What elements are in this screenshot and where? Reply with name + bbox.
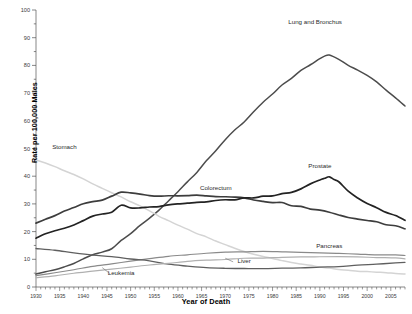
svg-text:20: 20 xyxy=(24,229,30,235)
series-line-colorectum xyxy=(36,192,405,229)
x-axis-title: Year of Death xyxy=(0,297,412,306)
svg-text:100: 100 xyxy=(21,7,30,13)
series-label-stomach: Stomach xyxy=(52,143,77,150)
series-lines xyxy=(36,55,405,278)
series-annotations: Lung and BronchusStomachColorectumProsta… xyxy=(52,18,342,277)
series-label-pancreas: Pancreas xyxy=(316,242,342,249)
series-label-colorectum: Colorectum xyxy=(200,184,232,191)
series-label-liver: Liver xyxy=(237,257,250,264)
svg-text:90: 90 xyxy=(24,35,30,41)
y-axis-title: Rate per 100,000 Males xyxy=(30,63,39,183)
series-label-lung-and-bronchus: Lung and Bronchus xyxy=(288,18,342,25)
series-line-liver xyxy=(36,248,405,268)
svg-text:30: 30 xyxy=(24,201,30,207)
series-label-leukemia: Leukemia xyxy=(108,269,135,276)
series-label-prostate: Prostate xyxy=(308,162,332,169)
cancer-mortality-line-chart: 0102030405060708090100 19301935194019451… xyxy=(0,0,412,314)
svg-text:10: 10 xyxy=(24,256,30,262)
series-line-leukemia xyxy=(36,257,405,278)
series-line-lung-and-bronchus xyxy=(36,55,405,274)
svg-text:0: 0 xyxy=(27,284,30,290)
plot-canvas: 0102030405060708090100 19301935194019451… xyxy=(0,0,412,314)
